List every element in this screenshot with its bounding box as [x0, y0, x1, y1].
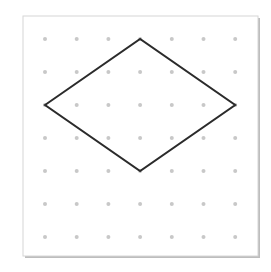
frame	[23, 16, 258, 256]
grid-dot	[202, 202, 206, 206]
grid-dot	[106, 235, 110, 239]
grid-dot	[75, 136, 79, 140]
grid-dot	[106, 70, 110, 74]
grid-dot	[138, 136, 142, 140]
grid-dot	[170, 37, 174, 41]
grid-dot	[170, 202, 174, 206]
grid-dot	[43, 37, 47, 41]
grid-dot	[202, 136, 206, 140]
grid-dot	[43, 70, 47, 74]
grid-dot	[106, 136, 110, 140]
grid-dot	[106, 169, 110, 173]
grid-dot	[138, 103, 142, 107]
grid-dot	[43, 169, 47, 173]
grid-dot	[202, 103, 206, 107]
grid-dot	[106, 37, 110, 41]
grid-dot	[233, 70, 237, 74]
grid-dot	[138, 70, 142, 74]
grid-dot	[233, 235, 237, 239]
grid-dot	[233, 37, 237, 41]
grid-dot	[75, 169, 79, 173]
grid-dot	[138, 235, 142, 239]
grid-dot	[75, 70, 79, 74]
grid-dot	[202, 37, 206, 41]
grid-dot	[75, 235, 79, 239]
grid-dot	[170, 70, 174, 74]
grid-dot	[202, 169, 206, 173]
grid-dot	[233, 202, 237, 206]
grid-dot	[75, 103, 79, 107]
grid-dot	[75, 202, 79, 206]
dot-grid-diagram	[0, 0, 271, 272]
grid-dot	[75, 37, 79, 41]
grid-dot	[202, 235, 206, 239]
grid-dot	[202, 70, 206, 74]
grid-dot	[170, 136, 174, 140]
grid-dot	[170, 235, 174, 239]
grid-dot	[106, 103, 110, 107]
grid-dot	[106, 202, 110, 206]
grid-dot	[138, 202, 142, 206]
grid-dot	[170, 169, 174, 173]
grid-dot	[170, 103, 174, 107]
grid-dot	[43, 136, 47, 140]
grid-dot	[233, 136, 237, 140]
grid-dot	[233, 169, 237, 173]
grid-dot	[43, 202, 47, 206]
grid-dot	[43, 235, 47, 239]
